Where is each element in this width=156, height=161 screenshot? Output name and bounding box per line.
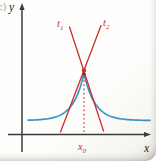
tangent-t2-label-sub: 2 [106, 23, 110, 31]
y-axis-arrowhead-icon [19, 3, 24, 10]
panel-label: (c) [0, 1, 6, 13]
tangent-line-t1 [70, 27, 104, 131]
corner-point [82, 68, 86, 72]
diagram-canvas: (c) y x t1 t2 x0 [0, 0, 156, 161]
tangent-t1-label-sub: 1 [60, 24, 64, 32]
x-axis-arrowhead-icon [144, 132, 151, 137]
x0-label-sub: 0 [83, 147, 87, 155]
function-curve [28, 74, 150, 121]
x0-label: x0 [77, 141, 87, 155]
y-axis-label: y [8, 1, 15, 14]
x-axis-label: x [143, 142, 150, 154]
tangent-t2-label: t2 [103, 17, 110, 31]
curve-peak-point [83, 72, 86, 75]
tangent-t1-label: t1 [57, 18, 63, 32]
tangent-line-t2 [61, 26, 102, 133]
figure-panel: (c) y x t1 t2 x0 [0, 0, 156, 161]
